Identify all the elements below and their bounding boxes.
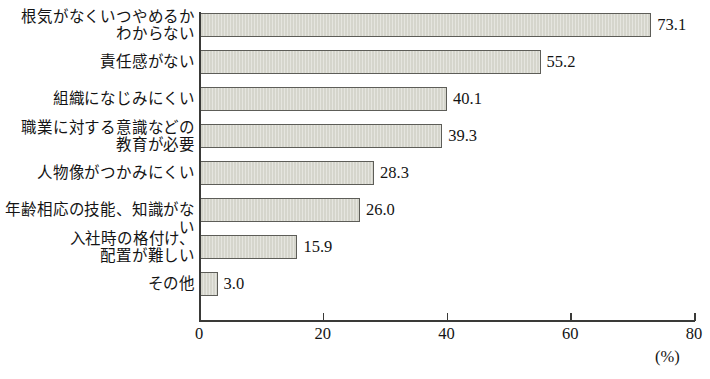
- bar-row: その他3.0: [0, 269, 710, 306]
- category-label: 責任感がない: [0, 53, 195, 71]
- x-axis-tick: [694, 313, 696, 321]
- bar-value-label: 15.9: [303, 235, 332, 259]
- x-axis-tick-label: 60: [550, 324, 590, 344]
- bar-row: 根気がなくいつやめるか わからない73.1: [0, 10, 710, 47]
- plot-area: 根気がなくいつやめるか わからない73.1責任感がない55.2組織になじみにくい…: [0, 10, 710, 315]
- bar-row: 年齢相応の技能、知識がない26.0: [0, 195, 710, 232]
- bar: [199, 13, 651, 37]
- bar-row: 入社時の格付け、 配置が難しい15.9: [0, 232, 710, 269]
- bar-value-label: 28.3: [380, 161, 409, 185]
- x-axis-tick-label: 20: [303, 324, 343, 344]
- bar: [199, 87, 447, 111]
- x-axis-unit-label: (%): [655, 347, 680, 367]
- x-axis-tick: [447, 313, 449, 321]
- bar: [199, 124, 442, 148]
- bar: [199, 272, 218, 296]
- x-axis-tick-label: 0: [179, 324, 219, 344]
- bar: [199, 235, 297, 259]
- bar-row: 責任感がない55.2: [0, 47, 710, 84]
- bar-value-label: 40.1: [453, 87, 482, 111]
- x-axis-tick-label: 40: [427, 324, 467, 344]
- bar-value-label: 3.0: [224, 272, 245, 296]
- x-axis-tick: [199, 313, 201, 321]
- bar: [199, 198, 360, 222]
- category-label: 組織になじみにくい: [0, 90, 195, 108]
- bar-row: 人物像がつかみにくい28.3: [0, 158, 710, 195]
- bar-row: 職業に対する意識などの 教育が必要39.3: [0, 121, 710, 158]
- x-axis-tick-label: 80: [674, 324, 710, 344]
- bar-chart: 根気がなくいつやめるか わからない73.1責任感がない55.2組織になじみにくい…: [0, 0, 710, 379]
- x-axis-tick: [570, 313, 572, 321]
- category-label: その他: [0, 275, 195, 293]
- bar: [199, 161, 374, 185]
- category-label: 入社時の格付け、 配置が難しい: [0, 230, 195, 265]
- bar-value-label: 73.1: [657, 13, 686, 37]
- y-axis-line: [199, 12, 201, 321]
- bar-row: 組織になじみにくい40.1: [0, 84, 710, 121]
- bar-value-label: 55.2: [547, 50, 576, 74]
- bar-value-label: 26.0: [366, 198, 395, 222]
- x-axis-tick: [323, 313, 325, 321]
- bar-value-label: 39.3: [448, 124, 477, 148]
- category-label: 根気がなくいつやめるか わからない: [0, 8, 195, 43]
- category-label: 職業に対する意識などの 教育が必要: [0, 119, 195, 154]
- bar: [199, 50, 541, 74]
- category-label: 人物像がつかみにくい: [0, 164, 195, 182]
